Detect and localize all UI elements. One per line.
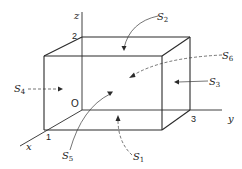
x-axis-label: x [26, 141, 32, 152]
box-diagram: z 2 y 3 x 1 O S2 S6 S3 S4 S5 S1 [0, 0, 242, 169]
s1-arrowhead [116, 115, 121, 121]
s3-arrow [178, 81, 208, 82]
origin-label: O [71, 98, 79, 109]
s4-label: S4 [14, 83, 26, 96]
s2-label: S2 [157, 11, 168, 24]
y-tick-label: 3 [191, 114, 196, 124]
s4-arrowhead [58, 87, 63, 92]
z-axis-label: z [73, 10, 80, 21]
s5-label: S5 [62, 150, 73, 163]
x-tick-label: 1 [46, 132, 51, 142]
s1-label: S1 [133, 151, 144, 164]
s2-arrowhead [122, 46, 127, 51]
box-edges [44, 37, 190, 130]
s3-arrowhead [174, 80, 179, 85]
s6-arrow [132, 55, 222, 76]
y-axis-label: y [227, 113, 234, 124]
z-tick-label: 2 [72, 31, 77, 41]
s3-label: S3 [209, 76, 220, 89]
s2-arrow [124, 16, 158, 48]
s6-label: S6 [222, 50, 234, 63]
s6-arrowhead [129, 73, 136, 79]
s1-arrow [118, 120, 132, 155]
